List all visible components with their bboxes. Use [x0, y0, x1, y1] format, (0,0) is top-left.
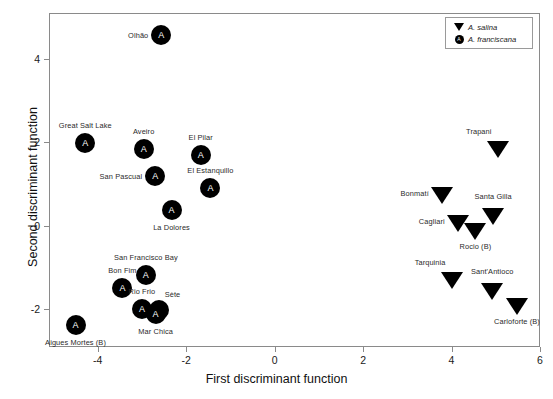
triangle-down-icon	[431, 187, 453, 204]
circle-a-icon: A	[146, 304, 166, 324]
point-label: Tarquinia	[415, 258, 446, 267]
circle-a-icon: A	[66, 315, 86, 335]
circle-a-icon: A	[145, 166, 165, 186]
point-label: El Estanquillo	[187, 166, 233, 175]
y-tick-label: -2	[31, 303, 40, 315]
x-tick-mark	[452, 347, 453, 352]
y-axis-title: Second discriminant function	[26, 77, 40, 297]
circle-a-icon: A	[200, 178, 220, 198]
legend-label-a-salina: A. salina	[468, 23, 497, 32]
legend-item-a-salina: A. salina	[450, 21, 528, 33]
x-tick-mark	[186, 347, 187, 352]
x-tick-label: 2	[360, 354, 366, 366]
x-tick-mark	[363, 347, 364, 352]
y-tick-label: 4	[34, 53, 40, 65]
triangle-down-icon	[481, 283, 503, 300]
triangle-down-icon	[441, 272, 463, 289]
point-label: Bonmatí	[401, 188, 429, 197]
triangle-down-icon	[487, 141, 509, 158]
circle-a-icon: A	[136, 265, 156, 285]
triangle-down-icon	[506, 298, 528, 315]
x-tick-label: 6	[537, 354, 543, 366]
x-tick-label: -4	[93, 354, 102, 366]
circle-a-icon: A	[134, 139, 154, 159]
x-tick-label: -2	[181, 354, 190, 366]
point-label: Mar Chica	[138, 327, 173, 336]
x-tick-mark	[275, 347, 276, 352]
point-label: El Pilar	[189, 133, 213, 142]
y-tick-mark	[44, 59, 49, 60]
circle-a-icon: A	[191, 145, 211, 165]
circle-a-icon: A	[450, 35, 468, 44]
x-tick-label: 0	[272, 354, 278, 366]
x-tick-label: 4	[449, 354, 455, 366]
triangle-down-icon	[464, 223, 486, 240]
point-label: Rocio (B)	[460, 242, 492, 251]
x-axis-title: First discriminant function	[0, 372, 553, 386]
point-label: Rio Frio	[129, 287, 156, 296]
point-label: Olhão	[128, 30, 148, 39]
point-label: Santa Gilla	[474, 192, 511, 201]
circle-a-icon: A	[162, 200, 182, 220]
point-label: Aveiro	[133, 127, 154, 136]
point-label: Cagliari	[419, 217, 445, 226]
point-label: San Francisco Bay	[114, 253, 178, 262]
legend-item-a-franciscana: A A. franciscana	[450, 33, 528, 45]
legend: A. salina A A. franciscana	[445, 17, 533, 49]
point-label: Sète	[165, 290, 181, 299]
point-label: San Pascual	[100, 172, 143, 181]
point-label: Sant'Antioco	[471, 267, 513, 276]
triangle-down-icon	[450, 23, 468, 31]
discriminant-scatter-figure: -4-20246 -2024 AOlhãoAGreat Salt LakeAAv…	[0, 0, 553, 399]
y-tick-mark	[44, 142, 49, 143]
x-tick-mark	[98, 347, 99, 352]
point-label: Carloforte (B)	[494, 317, 540, 326]
y-tick-mark	[44, 226, 49, 227]
y-tick-mark	[44, 309, 49, 310]
point-label: Trapani	[466, 127, 491, 136]
point-label: Bon Fim	[108, 266, 136, 275]
circle-a-icon: A	[151, 25, 171, 45]
legend-label-a-franciscana: A. franciscana	[468, 35, 516, 44]
x-tick-mark	[540, 347, 541, 352]
point-label: Great Salt Lake	[59, 121, 112, 130]
point-label: Aigues Mortes (B)	[45, 338, 106, 347]
point-label: La Dolores	[153, 223, 190, 232]
circle-a-icon: A	[75, 133, 95, 153]
